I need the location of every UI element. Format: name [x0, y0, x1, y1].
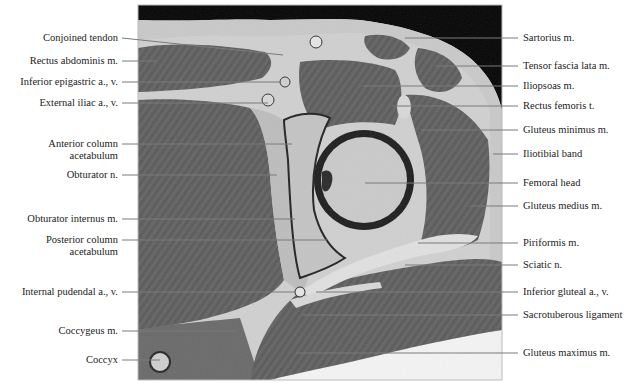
label-rectus-femoris: Rectus femoris t. [523, 100, 594, 112]
label-sartorius: Sartorius m. [523, 32, 574, 44]
label-text: Sartorius m. [523, 32, 574, 43]
label-text-line2: acetabulum [70, 150, 118, 161]
label-gluteus-medius: Gluteus medius m. [523, 200, 602, 212]
label-text: Inferior epigastric a., v. [20, 76, 118, 87]
label-iliopsoas: Iliopsoas m. [523, 80, 574, 92]
grain-overlay [138, 5, 502, 380]
mri-panel [138, 5, 502, 380]
label-rectus-abdominis: Rectus abdominis m. [30, 55, 118, 67]
figure: Conjoined tendonRectus abdominis m.Infer… [0, 0, 638, 383]
label-text: Iliotibial band [523, 148, 582, 159]
label-text: Conjoined tendon [43, 32, 118, 43]
label-piriformis: Piriformis m. [523, 237, 579, 249]
label-inferior-epigastric: Inferior epigastric a., v. [20, 76, 118, 88]
label-internal-pudendal: Internal pudendal a., v. [22, 286, 118, 298]
label-inferior-gluteal: Inferior gluteal a., v. [523, 286, 609, 298]
label-text: Posterior column [46, 234, 118, 245]
label-text: Gluteus medius m. [523, 200, 602, 211]
label-text: Femoral head [523, 177, 580, 188]
label-text: Piriformis m. [523, 237, 579, 248]
label-text: Gluteus maximus m. [523, 347, 610, 358]
label-femoral-head: Femoral head [523, 177, 580, 189]
label-text: Obturator internus m. [27, 213, 118, 224]
label-text: Tensor fascia lata m. [523, 60, 610, 71]
label-text: Sciatic n. [523, 259, 562, 270]
label-obturator-internus: Obturator internus m. [27, 213, 118, 225]
label-sciatic-n: Sciatic n. [523, 259, 562, 271]
label-tensor-fascia-lata: Tensor fascia lata m. [523, 60, 610, 72]
label-text: External iliac a., v. [39, 97, 118, 108]
label-text: Anterior column [48, 138, 118, 149]
label-text: Inferior gluteal a., v. [523, 286, 609, 297]
label-posterior-column: Posterior columnacetabulum [46, 234, 118, 258]
label-text: Coccygeus m. [59, 325, 119, 336]
label-external-iliac: External iliac a., v. [39, 97, 118, 109]
label-text: Gluteus minimus m. [523, 124, 608, 135]
label-anterior-column-1: Anterior columnacetabulum [48, 138, 118, 162]
label-text: Obturator n. [67, 169, 118, 180]
label-sacrotuberous: Sacrotuberous ligament [523, 309, 622, 321]
label-conjoined-tendon: Conjoined tendon [43, 32, 118, 44]
label-iliotibial-band: Iliotibial band [523, 148, 582, 160]
label-text: Internal pudendal a., v. [22, 286, 118, 297]
label-coccygeus: Coccygeus m. [59, 325, 119, 337]
label-text: Sacrotuberous ligament [523, 309, 622, 320]
label-text: Coccyx [86, 354, 118, 365]
label-coccyx: Coccyx [86, 354, 118, 366]
label-obturator-n: Obturator n. [67, 169, 118, 181]
label-text: Rectus abdominis m. [30, 55, 118, 66]
label-gluteus-minimus: Gluteus minimus m. [523, 124, 608, 136]
label-text: Iliopsoas m. [523, 80, 574, 91]
label-text: Rectus femoris t. [523, 100, 594, 111]
label-text-line2: acetabulum [70, 246, 118, 257]
label-gluteus-maximus: Gluteus maximus m. [523, 347, 610, 359]
